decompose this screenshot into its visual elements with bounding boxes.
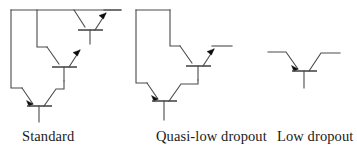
standard-transistor-q3 [22,81,64,122]
standard-mid-rail [37,10,47,47]
quasi-q2-collector-leg [169,80,198,101]
standard-transistor-q2 [47,47,80,81]
caption-row: Standard Quasi-low dropout Low dropout [0,126,357,155]
standard-q3-collector-leg [44,81,64,106]
standard-q1-collector-leg [74,10,85,27]
quasi-q1-emitter-arrow [207,49,214,55]
caption-standard: Standard [22,128,74,145]
quasi-right-rail [170,10,180,46]
quasi-transistor-q2 [147,80,198,120]
diagram-standard [11,10,121,122]
lowdrop-collector-leg [309,53,340,71]
quasi-transistor-q1 [180,46,232,80]
quasi-q1-collector-leg [180,46,192,63]
standard-left-rail [11,10,22,88]
standard-q2-emitter-arrow [73,50,80,56]
standard-q1-emitter-arrow [99,13,106,19]
standard-q2-collector-leg [47,47,59,64]
diagram-low-dropout [268,52,340,88]
standard-transistor-q1 [74,10,121,44]
diagram-quasi-low-dropout [136,10,232,120]
quasi-left-rail [136,10,147,83]
caption-low-dropout: Low dropout [277,128,353,145]
caption-quasi-low-dropout: Quasi-low dropout [156,128,267,145]
